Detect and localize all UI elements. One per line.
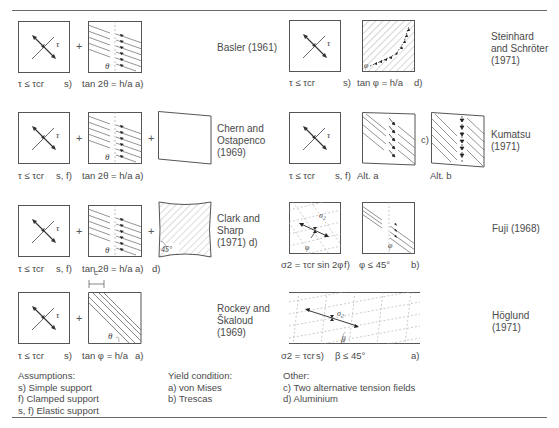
author-label: Rockey and Škaloud (1969): [217, 303, 270, 339]
note-code: d): [152, 263, 160, 274]
legend-assumptions: Assumptions: s) Simple support f) Clampe…: [18, 370, 99, 416]
note-code: d): [414, 77, 422, 88]
legend-item: f) Clamped support: [18, 393, 99, 405]
legend-other: Other: c) Two alternative tension fields…: [283, 370, 415, 405]
shear-condition: τ ≤ τcr: [18, 263, 44, 274]
legend-item: c) Two alternative tension fields: [283, 382, 415, 394]
field-formula: tan 2θ = h/a: [82, 78, 132, 89]
field-formula: β ≤ 45°: [335, 350, 365, 361]
shear-panel-icon: τ: [289, 20, 341, 72]
alt-b-label: Alt. b: [430, 170, 452, 181]
shear-panel-icon: τ: [18, 292, 70, 344]
yield-code: a): [135, 78, 143, 89]
steinhard-row: τ φ τ ≤ τcr s) tan φ = h/a d) Steinhard …: [280, 0, 559, 100]
svg-text:φ: φ: [388, 241, 393, 250]
support-code: s): [316, 350, 324, 361]
svg-text:θ: θ: [108, 331, 113, 341]
author-label: Basler (1961): [217, 42, 277, 54]
author-label: Chern and Ostapenco (1969): [217, 123, 265, 159]
author-label: Höglund (1971): [492, 310, 529, 334]
yield-code: b): [411, 259, 419, 270]
fuji-row: σ₂ φ φ σ2 = τcr sin 2φ f) φ ≤ 45° b) Fuj…: [280, 190, 559, 290]
compression-stress-panel-icon: σ₂ φ: [289, 202, 341, 254]
shear-condition: σ2 = τcr sin 2φ: [281, 259, 344, 270]
yield-code: a): [135, 350, 143, 361]
shear-panel-icon: τ: [18, 205, 70, 257]
yield-code: a): [411, 350, 419, 361]
svg-text:τ: τ: [56, 223, 60, 233]
alt-a-panel-icon: [362, 112, 416, 166]
shear-condition: τ ≤ τcr: [289, 77, 315, 88]
basler-row: τ + θ τ ≤ τcr s) tan 2θ = h/a a) Basler …: [0, 0, 280, 100]
legend-item: s) Simple support: [18, 382, 99, 394]
field-formula: tan φ = h/a: [82, 350, 128, 361]
shear-condition: τ ≤ τcr: [289, 170, 315, 181]
support-code: s): [343, 77, 351, 88]
svg-text:σ₂: σ₂: [337, 309, 344, 318]
deformed-panel-icon: [158, 111, 212, 167]
diagonal-band-panel-icon: θ: [88, 292, 142, 344]
plus-sign: +: [148, 225, 154, 237]
hoglund-row: σ₂ β σ2 = τcr s) β ≤ 45° a) Höglund (197…: [280, 290, 559, 360]
alt-b-panel-icon: [431, 112, 485, 168]
diagonal-tension-band-panel-icon: φ: [362, 20, 415, 72]
clark-row: τ + θ + 45° τ ≤ τcr s, f) tan 2θ = h/a a…: [0, 205, 280, 295]
legend-heading: Other:: [283, 370, 415, 382]
svg-text:σ₂: σ₂: [319, 211, 326, 220]
svg-text:θ: θ: [105, 61, 110, 71]
shear-condition: σ2 = τcr: [281, 350, 315, 361]
plus-sign: +: [76, 312, 82, 324]
rockey-row: τ + c θ τ ≤ τcr s) tan φ = h/a a) Rockey…: [0, 290, 280, 360]
legend-item: d) Aluminium: [283, 393, 415, 405]
author-label: Fuji (1968): [492, 223, 540, 235]
plus-sign: +: [76, 225, 82, 237]
chern-row: τ + θ + τ ≤ τcr s, f) tan 2θ = h/a a) Ch…: [0, 110, 280, 210]
shear-condition: τ ≤ τcr: [18, 170, 44, 181]
note-code: c): [421, 134, 429, 145]
legend-item: b) Trescas: [168, 393, 232, 405]
field-formula: φ ≤ 45°: [359, 259, 390, 270]
dimension-c-label: c: [94, 268, 98, 277]
legend-yield-condition: Yield condition: a) von Mises b) Trescas: [168, 370, 232, 405]
shear-condition: τ ≤ τcr: [18, 78, 44, 89]
svg-text:τ: τ: [56, 310, 60, 320]
yield-code: a): [135, 170, 143, 181]
legend-item: s, f) Elastic support: [18, 405, 99, 417]
support-code: s, f): [335, 170, 351, 181]
svg-text:τ: τ: [56, 39, 60, 49]
shear-condition: τ ≤ τcr: [18, 350, 44, 361]
support-code: s, f): [56, 170, 72, 181]
legend-heading: Assumptions:: [18, 370, 99, 382]
svg-text:φ: φ: [305, 243, 310, 252]
yield-code: a): [135, 263, 143, 274]
tension-field-panel-icon: θ: [88, 21, 142, 73]
bottom-rule: [12, 417, 547, 418]
dimension-c-icon: [88, 274, 108, 290]
shear-panel-icon: τ: [289, 112, 341, 164]
shear-panel-icon: τ: [18, 21, 70, 73]
support-code: s, f): [56, 263, 72, 274]
tension-band-panel-icon: φ: [362, 202, 415, 254]
plus-sign: +: [148, 132, 154, 144]
author-label: Steinhard and Schröter (1971): [491, 31, 548, 67]
svg-text:τ: τ: [327, 130, 331, 140]
plus-sign: +: [76, 40, 82, 52]
field-formula: tan 2θ = h/a: [82, 263, 132, 274]
author-label: Kumatsu (1971): [491, 129, 530, 153]
svg-text:τ: τ: [56, 130, 60, 140]
svg-text:τ: τ: [327, 38, 331, 48]
author-label: Clark and Sharp (1971) d): [217, 213, 260, 249]
support-code: f): [344, 259, 350, 270]
tension-field-panel-icon: θ: [88, 205, 142, 257]
field-formula: tan 2θ = h/a: [82, 170, 132, 181]
svg-text:φ: φ: [364, 61, 369, 70]
legend-item: a) von Mises: [168, 382, 232, 394]
tension-field-panel-icon: θ: [88, 112, 142, 164]
support-code: s): [64, 78, 72, 89]
plus-sign: +: [76, 132, 82, 144]
support-code: s): [64, 350, 72, 361]
shear-panel-icon: τ: [18, 112, 70, 164]
legend-heading: Yield condition:: [168, 370, 232, 382]
rotated-stress-field-panel-icon: σ₂ β: [289, 292, 420, 344]
alt-a-label: Alt. a: [357, 170, 379, 181]
